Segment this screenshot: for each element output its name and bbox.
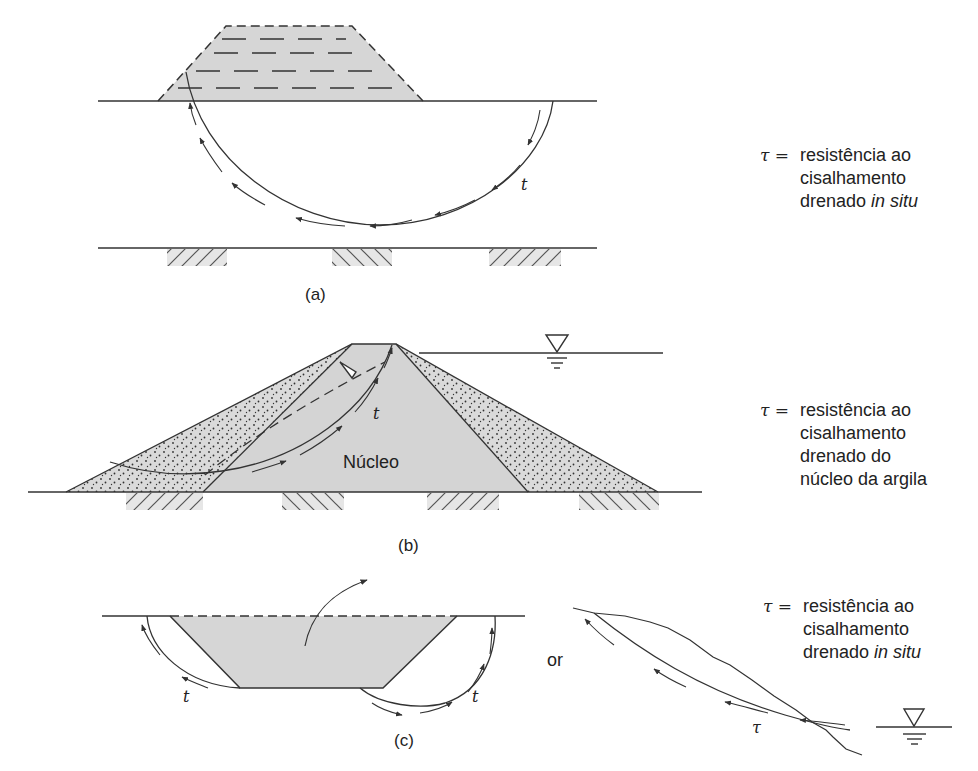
- legend-line-1: resistência ao: [803, 596, 914, 616]
- core-label: Núcleo: [343, 452, 399, 472]
- panel-b: t Núcleo (b): [28, 335, 702, 555]
- legend-line-1: resistência ao: [800, 145, 911, 165]
- legend-line-3: drenado in situ: [800, 191, 918, 211]
- slope-stability-diagram: t (a) τ = resistência ao cisalhamento dr…: [0, 0, 978, 771]
- hatch-block: [427, 493, 499, 510]
- hatch-block: [167, 249, 227, 266]
- legend-c: τ = resistência ao cisalhamento drenado …: [763, 596, 921, 662]
- hatch-block: [332, 249, 392, 266]
- legend-line-3: drenado do: [800, 446, 891, 466]
- shear-symbol-t-right: t: [472, 687, 479, 706]
- caption-c: (c): [394, 731, 414, 750]
- hatch-block: [126, 493, 203, 510]
- caption-b: (b): [398, 536, 419, 555]
- embankment: [158, 26, 423, 101]
- hatch-block: [579, 493, 659, 510]
- excavation: [170, 616, 457, 688]
- shear-symbol-tau-slope: τ: [752, 718, 762, 737]
- legend-b: τ = resistência ao cisalhamento drenado …: [760, 400, 928, 489]
- hatch-block: [489, 249, 561, 266]
- legend-line-2: cisalhamento: [800, 168, 906, 188]
- panel-a: t (a): [98, 26, 597, 304]
- water-level-icon: [546, 335, 568, 368]
- shear-symbol-t: t: [521, 175, 528, 194]
- shear-arrows: [190, 103, 540, 226]
- legend-line-2: cisalhamento: [803, 619, 909, 639]
- shear-symbol-t: t: [373, 404, 380, 423]
- hatch-block: [282, 493, 344, 510]
- caption-a: (a): [305, 285, 326, 304]
- shear-symbol-t-left: t: [183, 687, 190, 706]
- or-label: or: [547, 650, 563, 670]
- tau-equals: τ =: [760, 145, 789, 165]
- tau-equals: τ =: [763, 596, 792, 616]
- legend-line-1: resistência ao: [800, 400, 911, 420]
- legend-line-4: núcleo da argila: [800, 469, 928, 489]
- legend-line-2: cisalhamento: [800, 423, 906, 443]
- legend-a: τ = resistência ao cisalhamento drenado …: [760, 145, 918, 211]
- legend-line-3: drenado in situ: [803, 642, 921, 662]
- tau-equals: τ =: [760, 400, 789, 420]
